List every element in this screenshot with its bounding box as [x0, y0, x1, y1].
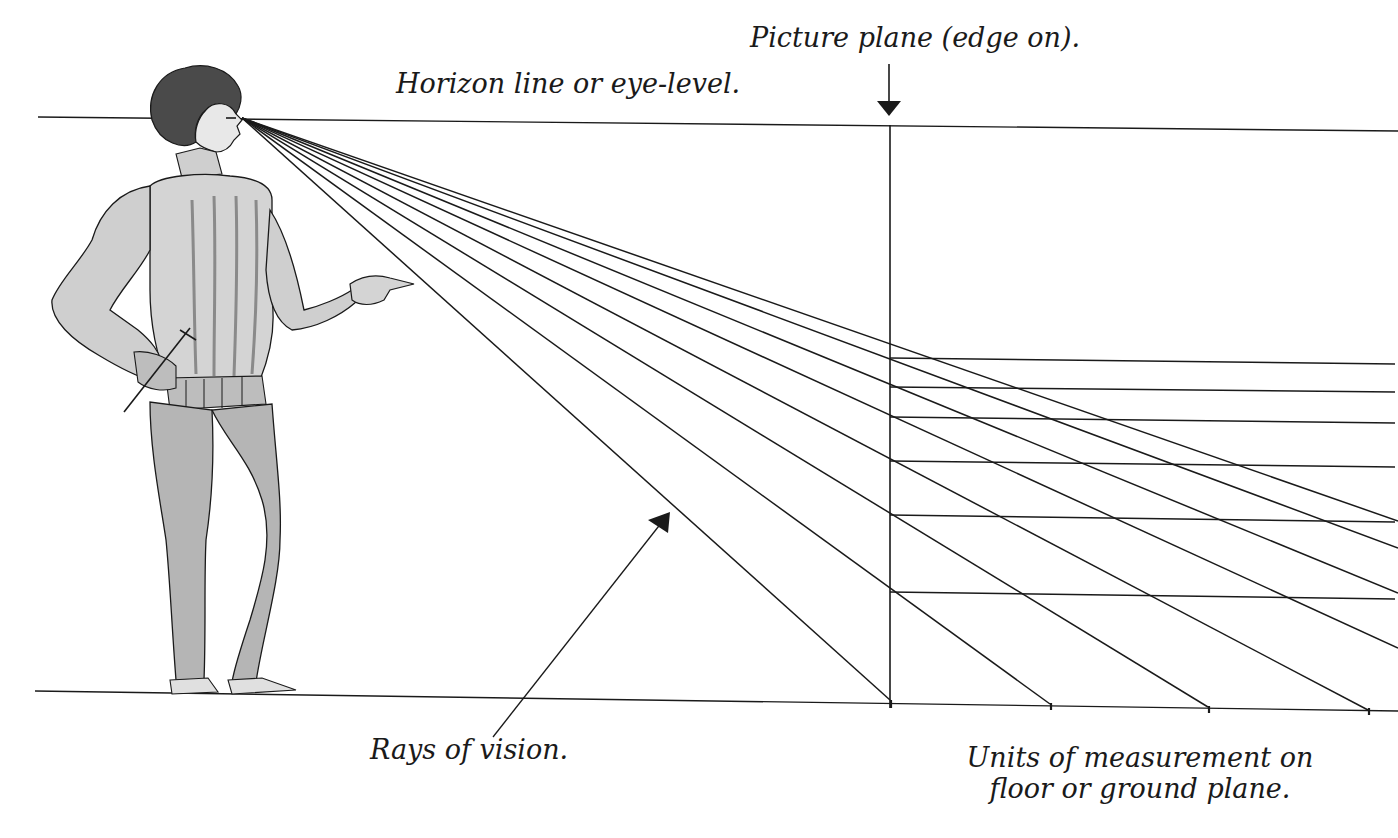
label-units-line-2: floor or ground plane. [960, 773, 1320, 804]
figure-leg-left [150, 402, 213, 680]
figure-leg-right [212, 404, 280, 682]
perspective-diagram: Picture plane (edge on). Horizon line or… [0, 0, 1398, 838]
horizon-line [38, 117, 1398, 131]
figure-arm-hip [52, 186, 166, 380]
picture-plane-arrow-icon [877, 64, 901, 116]
label-units-line-1: Units of measurement on [960, 742, 1320, 773]
picture-plane-marks [890, 358, 1395, 599]
rays-pointer-arrow-icon [493, 512, 670, 737]
label-picture-plane: Picture plane (edge on). [750, 22, 1080, 53]
diagram-drawing [0, 0, 1398, 838]
figure-man [52, 66, 414, 694]
rays-of-vision [242, 118, 1398, 710]
figure-shoe-left [170, 678, 218, 694]
label-horizon: Horizon line or eye-level. [396, 68, 740, 99]
figure-arm-pointing [266, 210, 356, 330]
figure-shoe-right [228, 678, 296, 694]
label-units-of-measurement: Units of measurement on floor or ground … [960, 742, 1320, 804]
label-rays-of-vision: Rays of vision. [370, 734, 568, 765]
figure-hand-pointing [350, 276, 414, 305]
